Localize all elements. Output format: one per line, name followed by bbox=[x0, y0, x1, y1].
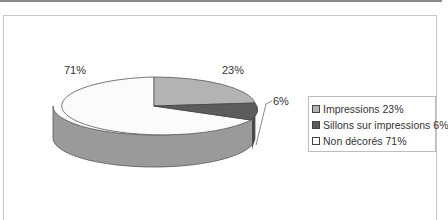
legend-item-non-decores: Non décorés 71% bbox=[312, 133, 435, 149]
legend-label: Sillons sur impressions 6% bbox=[323, 119, 448, 131]
data-label-non-decores: 71% bbox=[64, 64, 86, 76]
legend-item-impressions: Impressions 23% bbox=[312, 101, 435, 117]
chart-legend: Impressions 23% Sillons sur impressions … bbox=[308, 96, 436, 152]
data-label-sillons: 6% bbox=[273, 95, 289, 107]
legend-swatch-icon bbox=[312, 137, 320, 145]
leader-line-6pct bbox=[256, 101, 272, 145]
legend-label: Non décorés 71% bbox=[323, 135, 406, 147]
data-label-impressions: 23% bbox=[222, 64, 244, 76]
pie-slice-impressions bbox=[154, 77, 255, 106]
legend-item-sillons: Sillons sur impressions 6% bbox=[312, 117, 435, 133]
legend-label: Impressions 23% bbox=[323, 103, 404, 115]
legend-swatch-icon bbox=[312, 121, 320, 129]
legend-swatch-icon bbox=[312, 105, 320, 113]
